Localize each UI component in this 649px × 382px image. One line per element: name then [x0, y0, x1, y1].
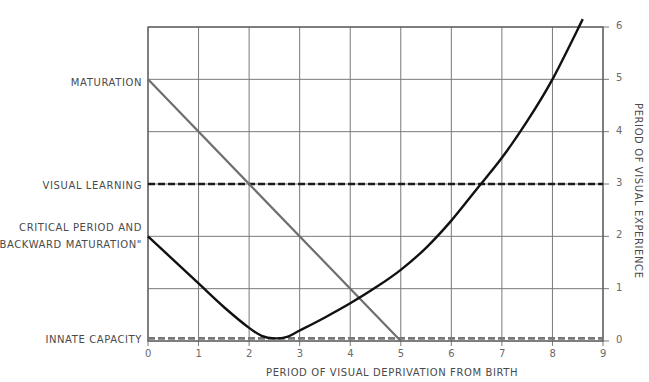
y-tick-label: 0: [616, 334, 622, 345]
series-line-critical-period-and-backward-maturation: [148, 19, 583, 338]
chart-series: [148, 19, 603, 341]
series-label-innate-capacity: INNATE CAPACITY: [45, 334, 142, 345]
x-tick-label: 6: [448, 348, 454, 359]
x-tick-label: 2: [246, 348, 252, 359]
x-tick-label: 7: [499, 348, 505, 359]
x-tick-label: 3: [297, 348, 303, 359]
chart-grid: [148, 27, 609, 346]
y-tick-label: 6: [616, 20, 622, 31]
series-label-backward-maturation: "BACKWARD MATURATION": [0, 239, 142, 250]
x-tick-label: 0: [145, 348, 151, 359]
y-tick-label: 2: [616, 229, 622, 240]
y-tick-label: 5: [616, 72, 622, 83]
x-tick-label: 5: [398, 348, 404, 359]
x-tick-label: 1: [196, 348, 202, 359]
y-tick-label: 3: [616, 177, 622, 188]
chart-canvas: [0, 0, 649, 382]
series-line-maturation: [148, 79, 401, 341]
x-tick-label: 9: [600, 348, 606, 359]
x-tick-label: 4: [347, 348, 353, 359]
y-tick-label: 1: [616, 282, 622, 293]
x-tick-label: 8: [549, 348, 555, 359]
x-axis-title: PERIOD OF VISUAL DEPRIVATION FROM BIRTH: [266, 367, 518, 378]
series-label-visual-learning: VISUAL LEARNING: [43, 180, 142, 191]
series-label-maturation: MATURATION: [71, 77, 142, 88]
y-tick-label: 4: [616, 125, 622, 136]
series-label-critical-period: CRITICAL PERIOD AND: [19, 222, 142, 233]
y-axis-title: PERIOD OF VISUAL EXPERIENCE: [633, 103, 644, 279]
